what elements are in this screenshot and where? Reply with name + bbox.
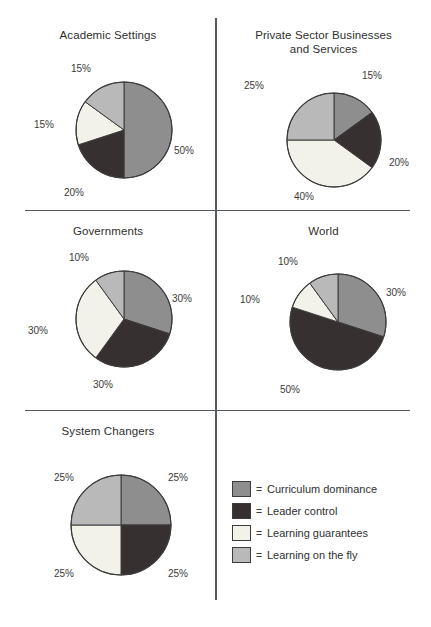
divider-horizontal-2 [25, 410, 410, 411]
pie-value-label: 10% [240, 294, 260, 305]
pie-value-label: 50% [174, 145, 194, 156]
pie-value-label: 30% [28, 325, 48, 336]
pie-slice [71, 475, 121, 525]
pie-chart [284, 90, 384, 190]
pie-chart [68, 472, 174, 578]
pie-value-label: 25% [168, 472, 188, 483]
pie-value-label: 25% [54, 568, 74, 579]
legend-item: =Learning on the fly [232, 544, 377, 566]
legend-equals-sign: = [251, 483, 267, 495]
panel-title: System Changers [0, 424, 216, 438]
pie-panel-private-sector-businesses-and-services: Private Sector Businesses and Services15… [216, 22, 431, 210]
legend-swatch-icon [232, 547, 251, 563]
pie-value-label: 25% [244, 80, 264, 91]
legend-equals-sign: = [251, 505, 267, 517]
pie-value-label: 15% [71, 63, 91, 74]
pie-value-label: 25% [168, 568, 188, 579]
pie-slice [124, 82, 172, 178]
pie-chart [287, 271, 389, 373]
pie-slice [121, 525, 171, 575]
pie-slice [287, 93, 334, 140]
legend-swatch-icon [232, 481, 251, 497]
pie-chart [73, 268, 175, 370]
legend: =Curriculum dominance=Leader control=Lea… [232, 478, 377, 566]
pie-panel-academic-settings: Academic Settings50%20%15%15% [0, 22, 216, 210]
legend-item: =Leader control [232, 500, 377, 522]
pie-value-label: 30% [386, 287, 406, 298]
legend-item: =Learning guarantees [232, 522, 377, 544]
legend-swatch-icon [232, 525, 251, 541]
pie-value-label: 30% [93, 379, 113, 390]
pie-slice [71, 525, 121, 575]
pie-chart [73, 79, 175, 181]
pie-value-label: 10% [278, 256, 298, 267]
pie-slice [121, 475, 171, 525]
legend-label: Leader control [267, 505, 337, 517]
legend-equals-sign: = [251, 549, 267, 561]
divider-horizontal-1 [25, 210, 410, 211]
legend-equals-sign: = [251, 527, 267, 539]
pie-value-label: 15% [34, 119, 54, 130]
legend-swatch-icon [232, 503, 251, 519]
legend-label: Learning on the fly [267, 549, 358, 561]
legend-label: Curriculum dominance [267, 483, 377, 495]
pie-value-label: 40% [294, 191, 314, 202]
pie-panel-system-changers: System Changers25%25%25%25% [0, 412, 216, 612]
panel-title: Private Sector Businesses and Services [216, 28, 431, 56]
pie-value-label: 30% [172, 293, 192, 304]
legend-item: =Curriculum dominance [232, 478, 377, 500]
figure-canvas: Academic Settings50%20%15%15%Private Sec… [0, 0, 431, 627]
pie-panel-governments: Governments30%30%30%10% [0, 212, 216, 410]
panel-title: World [216, 224, 431, 238]
pie-value-label: 25% [54, 472, 74, 483]
pie-value-label: 15% [362, 70, 382, 81]
legend-label: Learning guarantees [267, 527, 368, 539]
pie-value-label: 20% [389, 157, 409, 168]
panel-title: Governments [0, 224, 216, 238]
pie-panel-world: World30%50%10%10% [216, 212, 431, 410]
panel-title: Academic Settings [0, 28, 216, 42]
pie-value-label: 50% [280, 384, 300, 395]
pie-value-label: 10% [69, 252, 89, 263]
pie-value-label: 20% [64, 187, 84, 198]
